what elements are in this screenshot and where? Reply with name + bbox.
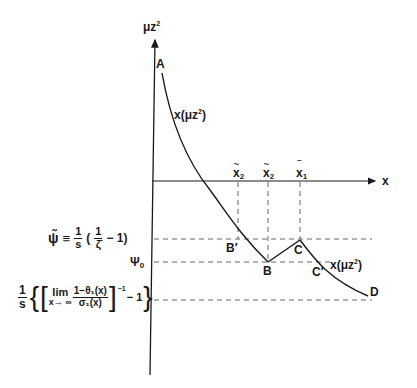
x-axis-label: x [382,175,389,187]
tilde-mark: ~ [263,160,270,169]
denominator: σ₁(x) [79,298,102,309]
limit-operator: lim x→ ∞ [49,286,72,308]
psi-tilde-symbol: ψ̃ [48,231,59,245]
denominator: ζ̄ [96,239,101,251]
x-tick-x1-bar: x‾1 [296,167,307,181]
point-d-label: D [370,286,379,298]
numerator: 1 [74,226,82,239]
psi-tilde-label: ψ̃ ≡ 1s ( 1ζ̄ − 1) [48,226,127,250]
x-tick-sub: 2 [270,172,274,181]
curve-label-upper-text: x(μz [174,108,198,122]
lim-subscript: x→ ∞ [49,298,72,308]
point-c-label: C [294,244,303,256]
numerator: 1−θ₁(x) [73,286,108,298]
exponent: −1 [118,285,126,292]
denominator: s [19,298,26,311]
limit-level-label: 1s { [ lim x→ ∞ 1−θ₁(x)σ₁(x) ] −1 − 1 } [18,283,153,311]
curve-label-lower-text: x(μz [330,258,354,272]
psi0-symbol: Ψ [130,255,140,269]
numerator: 1 [94,226,102,239]
point-c-prime-label: C′ [312,266,324,278]
bar-mark: ‾ [296,160,303,169]
curve-label-lower-close: ) [358,258,362,272]
curve-label-upper-close: ) [202,108,206,122]
y-axis [150,40,155,375]
x-tick-sub: 2 [240,172,244,181]
psi0-label: Ψ0 [130,256,144,270]
point-b-prime-label: B′ [226,242,238,254]
coef-fraction: 1s [74,226,82,250]
limit-fraction: 1−θ₁(x)σ₁(x) [73,286,108,308]
numerator: 1 [18,284,27,298]
curve-a-to-b [162,73,268,262]
x-tick-x2-tilde-right: x~2 [263,167,274,181]
coef-fraction: 1s [18,284,27,310]
point-a-label: A [156,58,165,70]
y-axis-label: μz2 [143,20,160,33]
open-paren: ( [86,232,90,244]
y-axis-label-sup: 2 [156,20,160,27]
open-bracket: [ [40,283,48,311]
close-brace: } [143,283,152,311]
curve-label-lower: x(μz2) [330,258,362,271]
close-bracket: ] [109,283,117,311]
open-brace: { [30,283,39,311]
denominator: s [75,239,81,251]
x-tick-sub: 1 [303,172,307,181]
diagram-canvas [0,0,417,388]
point-b-label: B [263,265,272,277]
equiv-sign: ≡ [63,232,71,245]
x-tick-x2-tilde-left: x~2 [233,167,244,181]
y-axis-label-text: μz [143,20,156,34]
minus-one: − 1 [127,292,143,303]
curve-label-upper: x(μz2) [174,108,206,121]
inner-fraction: 1ζ̄ [94,226,102,250]
psi0-sub: 0 [140,261,144,270]
minus-one: − 1) [106,232,127,244]
tilde-mark: ~ [233,160,240,169]
